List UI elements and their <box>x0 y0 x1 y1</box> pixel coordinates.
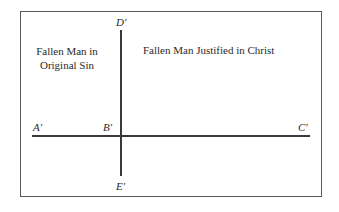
diagram-frame <box>20 11 322 197</box>
point-label-b: B′ <box>103 121 112 134</box>
point-label-e: E′ <box>116 180 125 193</box>
vertical-line-d-e <box>120 30 122 176</box>
point-label-d: D′ <box>116 16 126 29</box>
region-label-original-sin-line2: Original Sin <box>40 59 94 71</box>
region-label-original-sin: Fallen Man in Original Sin <box>32 44 102 72</box>
point-label-c: C′ <box>298 121 308 134</box>
region-label-original-sin-line1: Fallen Man in <box>36 45 98 57</box>
point-label-a: A′ <box>33 121 42 134</box>
region-label-justified-in-christ: Fallen Man Justified in Christ <box>143 44 274 57</box>
horizontal-line-a-c <box>32 135 310 137</box>
